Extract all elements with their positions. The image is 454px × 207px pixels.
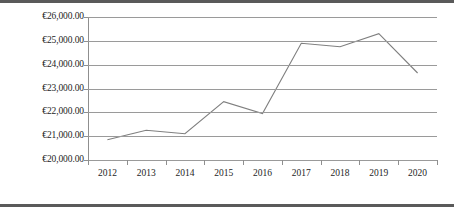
x-tick-label-2019: 2019 (359, 169, 399, 179)
x-tick-mark-9 (437, 160, 438, 165)
y-tick-mark-25000 (84, 41, 88, 42)
x-tick-label-2012: 2012 (87, 169, 127, 179)
gridline-20000 (88, 160, 437, 161)
y-tick-label-21000: €21,000.00 (42, 131, 84, 141)
y-tick-label-25000: €25,000.00 (42, 36, 84, 46)
gridline-24000 (88, 65, 437, 66)
x-tick-label-2013: 2013 (126, 169, 166, 179)
series-polyline (107, 34, 417, 140)
x-tick-mark-6 (321, 160, 322, 165)
x-tick-mark-0 (88, 160, 89, 165)
plot-area (88, 17, 437, 160)
gridline-26000 (88, 17, 437, 18)
y-tick-mark-22000 (84, 112, 88, 113)
x-tick-label-2020: 2020 (398, 169, 438, 179)
x-tick-label-2014: 2014 (165, 169, 205, 179)
y-tick-mark-26000 (84, 17, 88, 18)
x-tick-mark-8 (398, 160, 399, 165)
y-tick-mark-21000 (84, 136, 88, 137)
y-tick-label-22000: €22,000.00 (42, 107, 84, 117)
x-tick-mark-1 (127, 160, 128, 165)
gridline-23000 (88, 89, 437, 90)
x-tick-label-2016: 2016 (243, 169, 283, 179)
x-tick-label-2018: 2018 (320, 169, 360, 179)
y-axis-tick-labels: €26,000.00€25,000.00€24,000.00€23,000.00… (0, 0, 84, 207)
y-tick-label-23000: €23,000.00 (42, 84, 84, 94)
y-tick-mark-23000 (84, 89, 88, 90)
x-tick-label-2017: 2017 (281, 169, 321, 179)
x-tick-mark-3 (204, 160, 205, 165)
y-tick-label-20000: €20,000.00 (42, 155, 84, 165)
x-tick-mark-4 (243, 160, 244, 165)
gridline-22000 (88, 112, 437, 113)
gridline-25000 (88, 41, 437, 42)
y-tick-mark-24000 (84, 65, 88, 66)
x-tick-mark-5 (282, 160, 283, 165)
line-chart-figure: €26,000.00€25,000.00€24,000.00€23,000.00… (0, 0, 454, 207)
y-tick-mark-20000 (84, 160, 88, 161)
x-tick-label-2015: 2015 (204, 169, 244, 179)
x-tick-mark-2 (166, 160, 167, 165)
y-tick-label-26000: €26,000.00 (42, 12, 84, 22)
y-tick-label-24000: €24,000.00 (42, 60, 84, 70)
x-tick-mark-7 (359, 160, 360, 165)
gridline-21000 (88, 136, 437, 137)
